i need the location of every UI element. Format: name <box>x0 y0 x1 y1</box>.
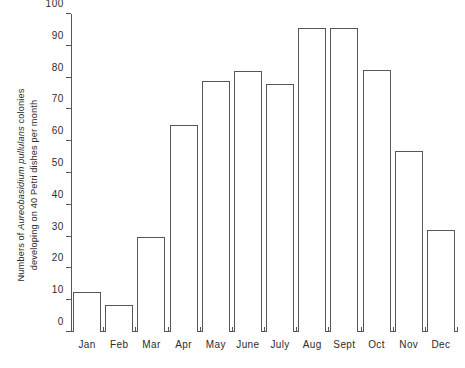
y-tick-mark <box>66 299 71 300</box>
x-tick-label-sept: Sept <box>333 339 355 350</box>
bar-sept <box>330 28 358 332</box>
bar-mar <box>137 237 165 332</box>
x-tick-label-nov: Nov <box>399 339 418 350</box>
y-tick-label: 80 <box>52 61 64 72</box>
y-tick-mark <box>66 172 71 173</box>
x-tick-mark <box>296 327 297 332</box>
x-tick-mark <box>200 327 201 332</box>
bar-feb <box>105 305 133 332</box>
y-tick-label: 30 <box>52 220 64 231</box>
x-tick-label-dec: Dec <box>431 339 450 350</box>
x-tick-label-apr: Apr <box>175 339 192 350</box>
bar-nov <box>395 151 423 332</box>
x-tick-mark <box>328 327 329 332</box>
y-tick-label: 0 <box>58 316 64 327</box>
y-tick-label: 40 <box>52 188 64 199</box>
bar-jan <box>73 292 101 332</box>
y-tick-mark <box>66 45 71 46</box>
bar-july <box>266 84 294 332</box>
bar-oct <box>363 70 391 332</box>
y-tick-label: 90 <box>52 29 64 40</box>
plot-area: 0102030405060708090100 JanFebMarAprMayJu… <box>71 14 457 332</box>
bar-may <box>202 81 230 332</box>
bar-june <box>234 71 262 332</box>
y-tick-label: 20 <box>52 252 64 263</box>
species-name: Aureobasidium pullulans <box>16 126 26 230</box>
x-tick-label-oct: Oct <box>368 339 385 350</box>
x-tick-mark <box>71 327 72 332</box>
y-tick-mark <box>66 108 71 109</box>
x-tick-label-july: July <box>270 339 289 350</box>
x-tick-mark <box>232 327 233 332</box>
y-tick-mark <box>66 77 71 78</box>
y-axis-title-line-1: Numbers of Aureobasidium pullulans colon… <box>15 89 28 282</box>
y-axis-title-suffix: colonies <box>16 89 26 127</box>
x-tick-label-jan: Jan <box>78 339 95 350</box>
bar-dec <box>427 230 455 332</box>
x-tick-mark <box>264 327 265 332</box>
x-tick-mark <box>103 327 104 332</box>
x-tick-label-feb: Feb <box>110 339 128 350</box>
x-tick-mark <box>393 327 394 332</box>
y-tick-mark <box>66 13 71 14</box>
x-tick-label-may: May <box>206 339 226 350</box>
x-tick-mark <box>425 327 426 332</box>
x-tick-mark <box>361 327 362 332</box>
x-tick-mark <box>168 327 169 332</box>
x-tick-label-mar: Mar <box>142 339 160 350</box>
y-tick-mark <box>66 140 71 141</box>
y-tick-mark <box>66 267 71 268</box>
y-tick-label: 50 <box>52 157 64 168</box>
bar-apr <box>170 125 198 332</box>
y-axis-title-prefix: Numbers of <box>16 230 26 282</box>
y-tick-label: 60 <box>52 125 64 136</box>
x-tick-label-june: June <box>236 339 259 350</box>
x-tick-mark <box>457 327 458 332</box>
x-tick-mark <box>135 327 136 332</box>
bar-chart-figure: Numbers of Aureobasidium pullulans colon… <box>0 0 465 368</box>
y-tick-label: 100 <box>46 0 65 9</box>
y-tick-label: 10 <box>52 284 64 295</box>
y-tick-mark <box>66 204 71 205</box>
bar-aug <box>298 28 326 332</box>
y-axis-line <box>71 14 72 332</box>
x-tick-label-aug: Aug <box>303 339 322 350</box>
y-axis-title-line-2: developing on 40 Petri dishes per month <box>27 89 40 282</box>
y-tick-label: 70 <box>52 93 64 104</box>
y-tick-mark <box>66 236 71 237</box>
y-axis-title: Numbers of Aureobasidium pullulans colon… <box>10 60 44 310</box>
